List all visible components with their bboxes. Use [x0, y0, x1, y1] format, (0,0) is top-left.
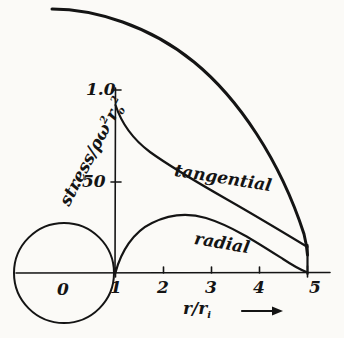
- x-tick-label-2-text: 2: [157, 277, 169, 297]
- x-axis-title: r/ri: [183, 300, 211, 320]
- x-tick-label-3-text: 3: [205, 277, 217, 297]
- stress-distribution-chart: [0, 0, 344, 338]
- disk-center-label-text: 0: [57, 279, 69, 299]
- x-axis-arrow-icon: [242, 307, 283, 316]
- x-axis-title-num: r: [183, 298, 192, 318]
- x-tick-label-1-text: 1: [110, 277, 122, 297]
- x-tick-label-4-text: 4: [253, 277, 265, 297]
- x-tick-label-3: 3: [205, 279, 217, 296]
- x-tick-label-4: 4: [253, 279, 265, 296]
- x-axis: [16, 273, 330, 274]
- x-axis-title-den-sub: i: [207, 309, 211, 320]
- x-tick-label-2: 2: [157, 279, 169, 296]
- disk-center-label: 0: [57, 281, 69, 298]
- x-axis-title-den: r: [198, 298, 207, 318]
- x-tick-label-5-text: 5: [309, 277, 321, 297]
- x-tick-label-5: 5: [309, 279, 321, 296]
- x-tick-label-1: 1: [110, 279, 122, 296]
